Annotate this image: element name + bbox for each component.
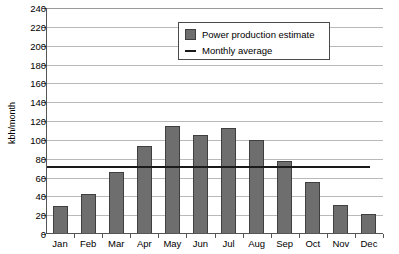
y-tick-label-200: 200 — [6, 40, 46, 51]
x-tick-mark-jul — [243, 234, 244, 238]
bar-jan — [53, 206, 68, 234]
bar-jun — [193, 135, 208, 234]
gridline-160 — [46, 83, 383, 84]
x-tick-label-dec: Dec — [361, 238, 378, 249]
legend-label-monthly-average: Monthly average — [202, 45, 272, 56]
chart-legend: Power production estimate Monthly averag… — [178, 22, 330, 60]
x-axis-line — [46, 233, 383, 234]
legend-item-monthly-average: Monthly average — [185, 43, 323, 57]
x-tick-label-apr: Apr — [137, 238, 152, 249]
x-tick-mark-nov — [355, 234, 356, 238]
bar-jul — [221, 128, 236, 234]
bar-dec — [361, 214, 376, 234]
y-tick-label-0: 0 — [6, 229, 46, 240]
gridline-180 — [46, 65, 383, 66]
y-tick-label-160: 160 — [6, 78, 46, 89]
x-tick-mark-may — [186, 234, 187, 238]
x-tick-label-feb: Feb — [80, 238, 96, 249]
gridline-120 — [46, 121, 383, 122]
bar-sep — [277, 161, 292, 234]
y-tick-label-20: 20 — [6, 210, 46, 221]
x-tick-mark-jun — [215, 234, 216, 238]
x-tick-label-may: May — [163, 238, 181, 249]
legend-item-power-production-estimate: Power production estimate — [185, 27, 323, 41]
y-tick-label-100: 100 — [6, 134, 46, 145]
y-tick-label-60: 60 — [6, 172, 46, 183]
x-tick-mark-jan — [74, 234, 75, 238]
x-tick-mark-mar — [130, 234, 131, 238]
x-tick-label-jun: Jun — [193, 238, 208, 249]
y-tick-label-40: 40 — [6, 191, 46, 202]
x-tick-mark-dec — [383, 234, 384, 238]
bar-may — [165, 126, 180, 234]
line-swatch-icon — [185, 45, 196, 56]
x-tick-label-sep: Sep — [276, 238, 293, 249]
y-tick-label-180: 180 — [6, 59, 46, 70]
x-tick-label-nov: Nov — [332, 238, 349, 249]
y-tick-label-240: 240 — [6, 3, 46, 14]
bar-mar — [109, 172, 124, 234]
average-line — [46, 166, 370, 168]
x-tick-label-jul: Jul — [222, 238, 234, 249]
gridline-60 — [46, 178, 383, 179]
x-tick-label-aug: Aug — [248, 238, 265, 249]
gridline-140 — [46, 102, 383, 103]
legend-label-power-production-estimate: Power production estimate — [202, 29, 314, 40]
bar-apr — [137, 146, 152, 234]
y-axis-line — [46, 8, 47, 234]
y-tick-label-80: 80 — [6, 153, 46, 164]
y-tick-label-220: 220 — [6, 21, 46, 32]
bar-oct — [305, 182, 320, 234]
bar-swatch-icon — [185, 29, 196, 40]
y-tick-label-120: 120 — [6, 116, 46, 127]
x-tick-label-oct: Oct — [305, 238, 320, 249]
gridline-240 — [46, 8, 383, 9]
x-tick-label-mar: Mar — [108, 238, 124, 249]
x-tick-mark-sep — [299, 234, 300, 238]
y-tick-label-140: 140 — [6, 97, 46, 108]
bar-nov — [333, 205, 348, 234]
gridline-40 — [46, 196, 383, 197]
x-tick-label-jan: Jan — [52, 238, 67, 249]
bar-feb — [81, 194, 96, 234]
gridline-80 — [46, 159, 383, 160]
gridline-100 — [46, 140, 383, 141]
x-tick-mark-oct — [327, 234, 328, 238]
bar-aug — [249, 140, 264, 234]
bar-chart: kbh/month 020406080100120140160180200220… — [0, 0, 399, 254]
x-tick-mark-apr — [158, 234, 159, 238]
x-tick-mark-aug — [271, 234, 272, 238]
x-tick-mark-feb — [102, 234, 103, 238]
